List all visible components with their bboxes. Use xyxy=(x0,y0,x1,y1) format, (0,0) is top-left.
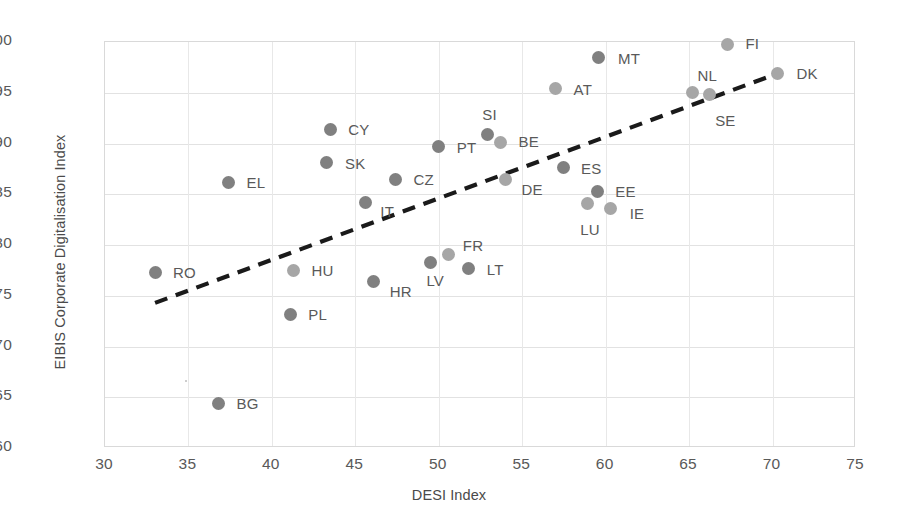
data-label-de: DE xyxy=(522,181,543,198)
gridline-x-35 xyxy=(188,42,189,446)
data-label-pl: PL xyxy=(308,306,327,323)
data-point-lt[interactable] xyxy=(462,262,475,275)
data-label-be: BE xyxy=(519,133,539,150)
data-label-hu: HU xyxy=(312,262,334,279)
data-point-es[interactable] xyxy=(557,161,570,174)
stray-speck xyxy=(185,380,187,382)
data-point-cy[interactable] xyxy=(324,123,337,136)
y-tick-label-100: 100 xyxy=(0,31,12,49)
y-tick-label-95: 95 xyxy=(0,82,12,100)
data-point-ee[interactable] xyxy=(591,185,604,198)
data-point-de[interactable] xyxy=(499,173,512,186)
gridline-x-45 xyxy=(355,42,356,446)
data-point-se[interactable] xyxy=(703,88,716,101)
gridline-x-60 xyxy=(606,42,607,446)
data-point-dk[interactable] xyxy=(771,67,784,80)
data-point-bg[interactable] xyxy=(212,397,225,410)
gridline-x-40 xyxy=(272,42,273,446)
data-point-si[interactable] xyxy=(481,128,494,141)
x-axis-title: DESI Index xyxy=(0,487,898,503)
gridline-y-95 xyxy=(105,93,854,94)
x-tick-label-45: 45 xyxy=(324,455,384,473)
x-tick-label-50: 50 xyxy=(408,455,468,473)
y-tick-label-80: 80 xyxy=(0,234,12,252)
data-label-ro: RO xyxy=(173,264,196,281)
scatter-chart-figure: 6065707580859095100 30354045505560657075… xyxy=(0,0,898,525)
data-point-hu[interactable] xyxy=(287,264,300,277)
data-point-cz[interactable] xyxy=(389,173,402,186)
data-label-lt: LT xyxy=(487,261,504,278)
y-tick-label-90: 90 xyxy=(0,133,12,151)
data-point-nl[interactable] xyxy=(686,86,699,99)
data-label-fr: FR xyxy=(463,237,483,254)
data-label-fi: FI xyxy=(745,35,759,52)
x-tick-label-60: 60 xyxy=(575,455,635,473)
y-axis-title: EIBIS Corporate Digitalisation Index xyxy=(52,72,68,432)
gridline-x-50 xyxy=(439,42,440,446)
data-point-hr[interactable] xyxy=(367,275,380,288)
x-tick-label-30: 30 xyxy=(74,455,134,473)
data-point-fi[interactable] xyxy=(721,38,734,51)
y-tick-label-70: 70 xyxy=(0,336,12,354)
data-point-el[interactable] xyxy=(222,176,235,189)
data-point-fr[interactable] xyxy=(442,248,455,261)
gridline-y-90 xyxy=(105,144,854,145)
data-label-bg: BG xyxy=(236,395,258,412)
y-tick-label-65: 65 xyxy=(0,386,12,404)
y-tick-label-60: 60 xyxy=(0,437,12,455)
data-label-pt: PT xyxy=(457,139,477,156)
plot-area: ROBGELHUPLCYSKITHRCZLVPTFRLTSIBEDEATESLU… xyxy=(104,41,855,447)
data-label-cz: CZ xyxy=(413,171,433,188)
x-tick-label-75: 75 xyxy=(825,455,885,473)
data-point-ie[interactable] xyxy=(604,202,617,215)
gridline-x-55 xyxy=(522,42,523,446)
data-label-dk: DK xyxy=(797,65,818,82)
x-tick-label-35: 35 xyxy=(157,455,217,473)
data-label-it: IT xyxy=(380,203,394,220)
data-label-se: SE xyxy=(715,112,735,129)
gridline-x-70 xyxy=(773,42,774,446)
data-point-pt[interactable] xyxy=(432,140,445,153)
data-point-lv[interactable] xyxy=(424,256,437,269)
x-tick-label-55: 55 xyxy=(491,455,551,473)
y-tick-label-85: 85 xyxy=(0,183,12,201)
data-point-mt[interactable] xyxy=(592,51,605,64)
data-point-lu[interactable] xyxy=(581,197,594,210)
data-label-cy: CY xyxy=(348,121,369,138)
data-label-es: ES xyxy=(581,160,601,177)
gridline-x-65 xyxy=(689,42,690,446)
data-point-ro[interactable] xyxy=(149,266,162,279)
data-point-it[interactable] xyxy=(359,196,372,209)
data-label-mt: MT xyxy=(618,50,640,67)
x-tick-label-70: 70 xyxy=(742,455,802,473)
x-tick-label-40: 40 xyxy=(241,455,301,473)
data-label-si: SI xyxy=(482,106,497,123)
data-point-sk[interactable] xyxy=(320,156,333,169)
data-label-hr: HR xyxy=(390,283,412,300)
data-label-nl: NL xyxy=(697,67,717,84)
data-label-lv: LV xyxy=(426,272,444,289)
data-label-lu: LU xyxy=(580,221,600,238)
data-label-el: EL xyxy=(246,174,265,191)
data-point-be[interactable] xyxy=(494,136,507,149)
data-label-ie: IE xyxy=(630,205,645,222)
gridline-y-85 xyxy=(105,194,854,195)
data-label-sk: SK xyxy=(345,155,365,172)
data-label-ee: EE xyxy=(615,183,635,200)
data-label-at: AT xyxy=(574,81,592,98)
x-tick-label-65: 65 xyxy=(658,455,718,473)
data-point-pl[interactable] xyxy=(284,308,297,321)
gridline-y-70 xyxy=(105,347,854,348)
y-tick-label-75: 75 xyxy=(0,285,12,303)
gridline-y-75 xyxy=(105,296,854,297)
